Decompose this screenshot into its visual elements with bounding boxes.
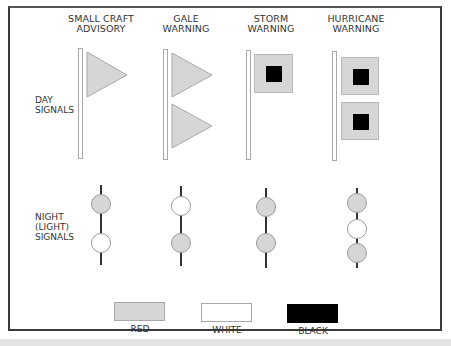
- red-pennant-icon: [86, 51, 130, 99]
- legend-label-white: WHITE: [197, 325, 257, 335]
- bottom-strip: [0, 339, 451, 346]
- column-title-hurricane-warning: HURRICANE WARNING: [311, 14, 401, 34]
- flag-pole: [246, 50, 251, 160]
- row-label-night-signals: NIGHT (LIGHT) SIGNALS: [35, 212, 74, 242]
- red-light-icon: [91, 194, 111, 214]
- label-line: (LIGHT): [35, 222, 74, 232]
- red-light-icon: [171, 233, 191, 253]
- white-light-icon: [91, 233, 111, 253]
- title-line: WARNING: [311, 24, 401, 34]
- red-square-flag-icon: [341, 102, 379, 140]
- legend-swatch-white: [201, 303, 252, 322]
- title-line: WARNING: [226, 24, 316, 34]
- flag-pole: [163, 49, 168, 160]
- white-light-icon: [171, 196, 191, 216]
- label-line: DAY: [35, 95, 74, 105]
- red-square-flag-icon: [254, 54, 293, 93]
- red-light-icon: [347, 243, 367, 263]
- title-line: WARNING: [141, 24, 231, 34]
- white-light-icon: [347, 219, 367, 239]
- red-pennant-icon: [171, 103, 215, 151]
- black-center-square: [266, 66, 282, 82]
- column-title-storm-warning: STORM WARNING: [226, 14, 316, 34]
- label-line: SIGNALS: [35, 232, 74, 242]
- label-line: SIGNALS: [35, 105, 74, 115]
- red-square-flag-icon: [341, 57, 379, 95]
- column-title-gale-warning: GALE WARNING: [141, 14, 231, 34]
- label-line: NIGHT: [35, 212, 74, 222]
- legend-label-black: BLACK: [283, 326, 343, 336]
- legend-swatch-red: [114, 302, 165, 321]
- row-label-day-signals: DAY SIGNALS: [35, 95, 74, 115]
- legend-label-red: RED: [110, 324, 170, 334]
- column-title-small-craft-advisory: SMALL CRAFT ADVISORY: [56, 14, 146, 34]
- diagram-frame: [8, 6, 442, 331]
- flag-pole: [332, 51, 337, 161]
- black-center-square: [353, 114, 369, 130]
- title-line: ADVISORY: [56, 24, 146, 34]
- red-pennant-icon: [171, 52, 215, 100]
- red-light-icon: [347, 193, 367, 213]
- red-light-icon: [256, 197, 276, 217]
- flag-pole: [78, 48, 83, 159]
- red-light-icon: [256, 233, 276, 253]
- legend-swatch-black: [287, 304, 338, 323]
- black-center-square: [353, 69, 369, 85]
